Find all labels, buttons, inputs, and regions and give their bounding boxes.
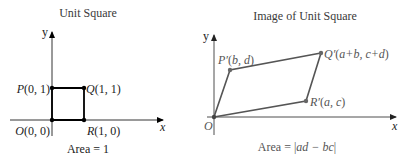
label-q: Q(1, 1): [86, 82, 121, 96]
x-axis-label: x: [159, 120, 166, 134]
image-title: Image of Unit Square: [253, 9, 357, 23]
unit-square-panel: Unit Square y x P(0, 1) Q(1, 1) O(0, 0) …: [10, 6, 166, 156]
image-area: Area = |ad − bc|: [258, 140, 336, 154]
label-r-prime: R′(a, c): [309, 95, 345, 109]
label-p: P(0, 1): [16, 82, 50, 96]
diagram-canvas: Unit Square y x P(0, 1) Q(1, 1) O(0, 0) …: [0, 0, 404, 165]
point-o: [50, 118, 54, 122]
point-p-prime: [228, 68, 232, 72]
label-p-prime: P′(b, d): [217, 53, 254, 67]
y-axis-label: y: [42, 25, 48, 39]
point-q-prime: [319, 51, 323, 55]
image-panel: Image of Unit Square y x P′(b, d) Q′(a+b…: [203, 9, 398, 154]
point-p: [50, 86, 54, 90]
point-r-prime: [304, 99, 308, 103]
unit-square-area: Area = 1: [67, 142, 109, 156]
label-o: O(0, 0): [15, 124, 50, 138]
y-axis-label-image: y: [203, 29, 209, 43]
label-o-image: O: [204, 119, 213, 133]
unit-square-title: Unit Square: [59, 6, 117, 20]
x-axis-label-image: x: [391, 119, 398, 133]
point-r: [82, 118, 86, 122]
label-r: R(1, 0): [86, 124, 120, 138]
label-q-prime: Q′(a+b, c+d): [324, 47, 389, 61]
unit-square: [52, 88, 84, 120]
